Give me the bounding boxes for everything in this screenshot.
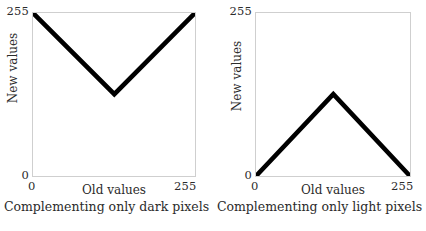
plot-area-light-pixels <box>255 12 411 177</box>
y-axis-tick-min: 0 <box>2 170 29 182</box>
plot-line-dark-pixels <box>33 13 195 176</box>
y-axis-label: New values <box>231 40 243 112</box>
x-axis-label: Old values <box>255 184 411 196</box>
panel-dark-pixels: 255 0 0 255 New values Old values Comple… <box>0 0 213 231</box>
panel-light-pixels: 255 0 0 255 New values Old values Comple… <box>213 0 426 231</box>
x-axis-label: Old values <box>32 184 196 196</box>
y-axis-tick-min: 0 <box>223 170 252 182</box>
panel-caption: Complementing only light pixels <box>213 201 426 214</box>
plot-area-dark-pixels <box>32 12 196 177</box>
y-axis-tick-max: 255 <box>223 6 252 18</box>
y-axis-tick-max: 255 <box>2 6 29 18</box>
figure-container: 255 0 0 255 New values Old values Comple… <box>0 0 426 231</box>
plot-line-light-pixels <box>256 13 410 176</box>
panel-caption: Complementing only dark pixels <box>0 201 213 214</box>
y-axis-label: New values <box>7 32 19 104</box>
